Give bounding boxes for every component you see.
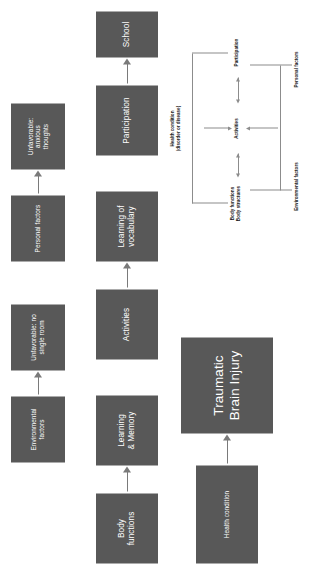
icf-bottom-bracket — [280, 65, 281, 190]
node-personal-factors-label: Personal factors — [34, 204, 42, 252]
icf-link-environmental — [280, 189, 292, 190]
figure-canvas: Health condition Traumatic Brain Injury … — [0, 0, 330, 587]
arrow-environmental-to-unfavorable-room — [34, 372, 43, 394]
icf-arrowhead-contextual-up — [246, 126, 250, 130]
node-personal-factors: Personal factors — [11, 195, 65, 261]
arrow-activities-to-vocabulary — [123, 263, 132, 287]
node-unfavorable-anxious-line2: anxious — [34, 125, 41, 148]
icf-body-functions-line1: Body functions — [230, 186, 235, 219]
node-body-functions-line2: functions — [127, 511, 136, 545]
node-learning-vocabulary: Learning of vocabulary — [96, 191, 158, 261]
node-unfavorable-anxious-line1: Unfavorable: — [27, 117, 34, 154]
node-participation: Participation — [96, 85, 158, 155]
node-school: School — [96, 11, 158, 57]
node-traumatic-brain-injury: Traumatic Brain Injury — [181, 337, 273, 433]
node-health-condition-label: Health condition — [223, 490, 231, 537]
node-participation-label: Participation — [122, 97, 132, 143]
icf-top-bracket — [192, 53, 193, 203]
node-environmental-factors-line1: Environmental — [30, 408, 37, 450]
icf-participation-text: Participation — [234, 38, 239, 66]
icf-bottom-bracket-right — [250, 64, 280, 65]
icf-participation-label: Participation — [234, 27, 240, 77]
node-learning-vocabulary-line2: vocabulary — [127, 206, 136, 247]
node-environmental-factors: Environmental factors — [11, 396, 65, 462]
icf-top-bracket-left — [192, 202, 204, 203]
icf-environmental-text: Environmental factors — [294, 162, 299, 211]
icf-link-health-participation — [204, 52, 228, 53]
icf-body-functions-label: Body functions Body structures — [230, 175, 241, 231]
arrow-health-to-tbi — [223, 435, 232, 463]
node-learning-memory-line1: Learning — [117, 414, 126, 447]
icf-arrowhead-participation — [236, 77, 240, 81]
icf-health-condition-label: Health condition (disorder or disease) — [170, 87, 181, 169]
node-school-label: School — [122, 21, 132, 47]
icf-activities-label: Activities — [234, 103, 240, 153]
node-unfavorable-anxious-line3: thoughts — [42, 123, 49, 148]
node-body-functions-line1: Body — [117, 518, 126, 537]
icf-arrowhead-health-activities — [228, 126, 232, 130]
icf-top-bracket-right — [192, 52, 204, 53]
node-health-condition: Health condition — [196, 465, 258, 563]
icf-arrowhead-body — [236, 173, 240, 177]
icf-bottom-bracket-left — [250, 189, 280, 190]
node-learning-vocabulary-line1: Learning of — [117, 205, 126, 247]
node-unfavorable-anxious-thoughts: Unfavorable: anxious thoughts — [11, 103, 65, 169]
node-activities: Activities — [96, 289, 158, 359]
icf-arrowhead-activities-right — [236, 99, 240, 103]
icf-model-schematic: Health condition (disorder or disease) B… — [170, 20, 320, 235]
node-tbi-line2: Brain Injury — [227, 350, 242, 419]
node-environmental-factors-line2: factors — [38, 419, 45, 439]
icf-body-functions-line2: Body structures — [236, 185, 241, 220]
icf-link-health-activities — [204, 127, 230, 128]
icf-arrowhead-activities-left — [236, 153, 240, 157]
icf-health-condition-line2: (disorder or disease) — [176, 105, 181, 150]
node-unfavorable-single-room-line1: Unfavorable: no — [30, 314, 37, 361]
node-unfavorable-single-room: Unfavorable: no single room — [11, 304, 65, 370]
arrow-personal-to-unfavorable-thoughts — [34, 171, 43, 193]
node-unfavorable-single-room-line2: single room — [38, 320, 45, 354]
node-activities-label: Activities — [122, 307, 132, 340]
icf-personal-text: Personal factors — [294, 51, 299, 87]
icf-link-activities-contextual — [250, 127, 278, 128]
node-tbi-line1: Traumatic — [211, 355, 226, 415]
icf-personal-factors-label: Personal factors — [294, 29, 300, 109]
arrow-participation-to-school — [123, 59, 132, 83]
icf-link-personal — [280, 64, 292, 65]
node-body-functions: Body functions — [96, 493, 158, 563]
arrow-body-to-learning — [123, 467, 132, 491]
node-learning-memory: Learning & Memory — [96, 395, 158, 465]
node-learning-memory-line2: & Memory — [127, 411, 136, 449]
rotated-diagram: Health condition Traumatic Brain Injury … — [0, 0, 330, 587]
icf-health-condition-line1: Health condition — [170, 110, 175, 146]
icf-activities-text: Activities — [234, 118, 239, 138]
icf-environmental-factors-label: Environmental factors — [294, 143, 300, 229]
icf-link-health-body — [204, 202, 228, 203]
